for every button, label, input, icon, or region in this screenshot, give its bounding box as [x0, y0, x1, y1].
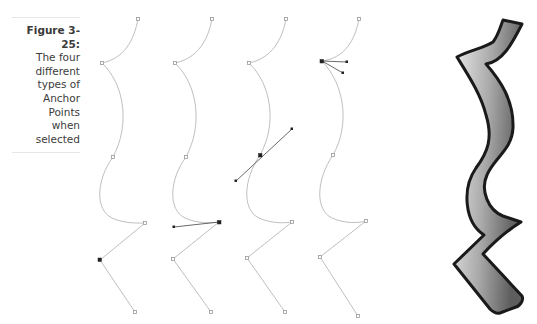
anchor-hollow: [137, 18, 140, 21]
handle-point: [291, 128, 294, 131]
anchor-hollow: [248, 62, 251, 65]
anchor-hollow: [134, 311, 137, 314]
path-2-curve: [173, 19, 219, 312]
anchor-hollow: [211, 18, 214, 21]
anchor-hollow: [185, 156, 188, 159]
anchor-hollow: [210, 311, 213, 314]
anchor-selected: [218, 221, 222, 225]
direction-handle: [174, 222, 219, 227]
handle-point: [346, 61, 349, 64]
path-3: [235, 18, 294, 314]
anchor-hollow: [358, 18, 361, 21]
path-3-curve: [247, 19, 292, 312]
path-1: [98, 18, 147, 314]
anchor-hollow: [112, 156, 115, 159]
anchor-hollow: [172, 258, 175, 261]
direction-handle: [322, 61, 347, 62]
handle-point: [235, 180, 238, 183]
anchor-selected: [320, 60, 324, 64]
path-4: [319, 18, 368, 318]
anchor-hollow: [246, 257, 249, 260]
stroked-zigzag-shape: [454, 20, 523, 313]
anchor-hollow: [291, 221, 294, 224]
anchor-hollow: [144, 222, 147, 225]
anchor-hollow: [101, 62, 104, 65]
direction-handle: [236, 129, 292, 181]
anchor-points-diagram: [0, 0, 537, 324]
path-1-curve: [100, 19, 145, 312]
anchor-hollow: [285, 18, 288, 21]
handle-point: [173, 226, 176, 229]
anchor-selected: [98, 258, 102, 262]
anchor-hollow: [174, 62, 177, 65]
anchor-selected: [259, 154, 263, 158]
direction-handle: [322, 61, 343, 73]
anchor-hollow: [319, 256, 322, 259]
anchor-hollow: [284, 311, 287, 314]
anchor-hollow: [357, 315, 360, 318]
anchor-hollow: [365, 220, 368, 223]
anchor-hollow: [332, 154, 335, 157]
handle-point: [342, 72, 345, 75]
path-2: [172, 18, 222, 314]
